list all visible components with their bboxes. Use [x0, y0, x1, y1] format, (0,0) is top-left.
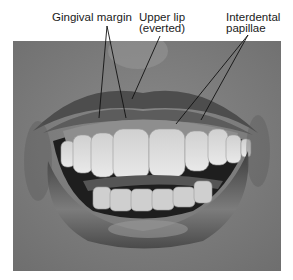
label-interdental-papillae: Interdental papillae — [226, 12, 280, 34]
label-gingival-margin-text: Gingival margin — [52, 11, 132, 23]
label-interdental-papillae-line2: papillae — [226, 23, 280, 34]
label-upper-lip-line2: (everted) — [139, 23, 185, 34]
label-upper-lip: Upper lip (everted) — [139, 12, 185, 34]
mouth-photograph — [13, 41, 281, 271]
label-gingival-margin: Gingival margin — [52, 12, 132, 23]
